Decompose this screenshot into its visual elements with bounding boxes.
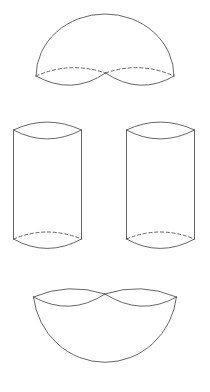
left-cylinder-body-fill (14, 130, 82, 249)
right-cylinder-top-back-arc (127, 122, 195, 130)
bottom-bowl-body-fill (34, 289, 177, 363)
top-dome-body-fill (36, 14, 174, 85)
geometry-figure (0, 0, 210, 392)
top-dome-shape (36, 14, 174, 85)
left-cylinder-top-back-arc (14, 122, 82, 130)
bottom-bowl-shape (34, 289, 177, 363)
left-cylinder-shape (14, 122, 82, 249)
right-cylinder-body-fill (127, 130, 195, 249)
right-cylinder-shape (127, 122, 195, 249)
